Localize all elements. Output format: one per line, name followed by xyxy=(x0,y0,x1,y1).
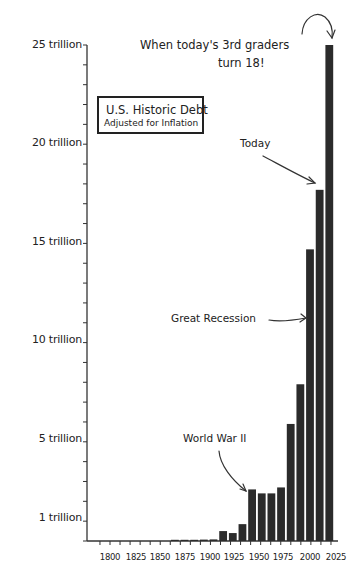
chart-subtitle: Adjusted for Inflation xyxy=(104,118,198,128)
arrow-today xyxy=(263,156,315,183)
y-tick-label-5: 5 trillion xyxy=(2,432,82,445)
x-tick-label-2000: 2000 xyxy=(300,552,320,562)
y-tick-label-1: 1 trillion xyxy=(2,511,82,524)
bar-1910 xyxy=(210,539,218,541)
annotation-world-war-ii: World War II xyxy=(183,432,246,444)
bar-2000 xyxy=(296,384,304,541)
annotation-today: Today xyxy=(240,137,270,149)
x-tick-label-1975: 1975 xyxy=(273,552,293,562)
chart-title: U.S. Historic Debt xyxy=(106,103,208,117)
annotation-great-recession: Great Recession xyxy=(171,312,256,324)
y-tick-label-20: 20 trillion xyxy=(2,136,82,149)
y-tick-label-25: 25 trillion xyxy=(2,38,82,51)
debt-bar-chart xyxy=(0,0,357,574)
bar-1880 xyxy=(181,540,189,541)
x-tick-label-1825: 1825 xyxy=(126,552,146,562)
chart-title-box: U.S. Historic Debt Adjusted for Inflatio… xyxy=(97,96,204,134)
x-tick-label-2025: 2025 xyxy=(326,552,346,562)
x-tick-label-1900: 1900 xyxy=(200,552,220,562)
arrow-world-war-ii xyxy=(219,451,246,491)
arrow-future xyxy=(302,14,332,38)
x-tick-label-1950: 1950 xyxy=(249,552,269,562)
bar-1980 xyxy=(277,487,285,541)
bar-2010 xyxy=(306,249,314,541)
annotation-future-line2: turn 18! xyxy=(218,56,265,70)
bar-1920 xyxy=(219,531,227,541)
bar-1960 xyxy=(258,493,266,541)
arrowhead-future xyxy=(327,30,335,38)
bar-1990 xyxy=(287,424,295,541)
bar-1930 xyxy=(229,533,237,541)
bar-1940 xyxy=(239,524,247,541)
bar-1900 xyxy=(200,540,208,541)
bar-1950 xyxy=(248,489,256,541)
x-tick-label-1850: 1850 xyxy=(150,552,170,562)
x-tick-label-1875: 1875 xyxy=(175,552,195,562)
bar-2020 xyxy=(316,190,324,541)
x-tick-label-1800: 1800 xyxy=(100,552,120,562)
y-tick-label-10: 10 trillion xyxy=(2,333,82,346)
bar-2030 xyxy=(325,45,333,541)
annotation-future-line1: When today's 3rd graders xyxy=(140,38,289,52)
bar-1870 xyxy=(171,540,179,541)
x-tick-label-1925: 1925 xyxy=(224,552,244,562)
bar-1970 xyxy=(268,493,276,541)
arrow-great-recession xyxy=(269,318,306,321)
y-tick-label-15: 15 trillion xyxy=(2,235,82,248)
bar-1890 xyxy=(190,540,198,541)
